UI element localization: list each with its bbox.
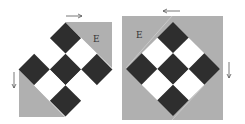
arrow-down-icon — [12, 72, 16, 88]
arrow-right-icon — [66, 14, 82, 18]
arrow-left-icon — [163, 9, 180, 13]
right-figure: E — [122, 9, 231, 120]
left-figure: E — [12, 14, 112, 117]
diagram-canvas: E E — [0, 0, 245, 124]
arrow-down-icon — [227, 62, 231, 78]
left-figure-label: E — [93, 34, 100, 44]
right-figure-label: E — [136, 30, 143, 40]
